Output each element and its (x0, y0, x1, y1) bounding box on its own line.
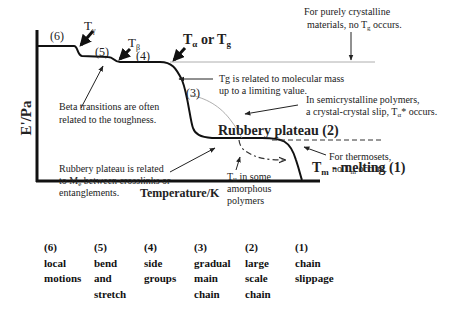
legend-line: chain (194, 287, 231, 303)
legend-line: slippage (295, 271, 334, 287)
region-label-6: (6) (50, 29, 64, 43)
thermosets-note: For thermosets, (329, 151, 391, 162)
beta-note: Beta transitions are often related to th… (59, 101, 162, 125)
tll-curve (239, 140, 285, 160)
legend-line: and (94, 271, 126, 287)
semicrystalline-arrow (245, 105, 298, 114)
legend-col-6: (6) local motions (44, 240, 81, 287)
thermoset-arrow (304, 147, 326, 155)
legend-line: stretch (94, 287, 126, 303)
legend-line: scale (245, 271, 271, 287)
semicrystalline-note: In semicrystalline polymers, a crystal-c… (306, 94, 437, 119)
tll-note: Tll in some amorphous polymers (227, 171, 274, 206)
modulus-curve (38, 46, 302, 180)
legend-num: (4) (144, 240, 176, 256)
legend-num: (3) (194, 240, 231, 256)
legend-num: (5) (94, 240, 126, 256)
legend-line: large (245, 256, 271, 272)
tg-mass-note: Tg is related to molecular mass up to a … (219, 73, 347, 96)
t-gamma-label: Tγ (84, 18, 96, 35)
region-label-5: (5) (95, 45, 109, 59)
t-beta-arrow (120, 49, 130, 59)
legend-line: chain (295, 256, 334, 272)
legend-line: bend (94, 256, 126, 272)
legend-col-4: (4) side groups (144, 240, 176, 287)
t-beta-label: Tβ (128, 35, 140, 52)
legend-line: side (144, 256, 176, 272)
legend-line: gradual (194, 256, 231, 272)
legend-col-1: (1) chain slippage (295, 240, 334, 287)
legend-col-5: (5) bend and stretch (94, 240, 126, 302)
legend-num: (1) (295, 240, 334, 256)
region-label-3: (3) (186, 86, 200, 100)
tll-arrow (236, 157, 240, 170)
legend-num: (2) (245, 240, 271, 256)
rubbery-plateau-label: Rubbery plateau (2) (218, 123, 339, 139)
legend-line: chain (245, 287, 271, 303)
t-alpha-arrow (174, 48, 185, 60)
legend-line: motions (44, 271, 81, 287)
rubbery-note-arrow (170, 148, 215, 172)
legend-num: (6) (44, 240, 81, 256)
legend-col-3: (3) gradual main chain (194, 240, 231, 302)
legend-line: main (194, 271, 231, 287)
x-axis-label: Temperature/K (140, 186, 220, 200)
legend-col-2: (2) large scale chain (245, 240, 271, 302)
y-axis-label: E'/Pa (18, 100, 34, 136)
t-alpha-or-tg-label: Tα or Tg (183, 32, 231, 49)
crystalline-note: For purely crystalline materials, no Tg … (304, 6, 402, 32)
legend-line: local (44, 256, 81, 272)
legend-line: groups (144, 271, 176, 287)
